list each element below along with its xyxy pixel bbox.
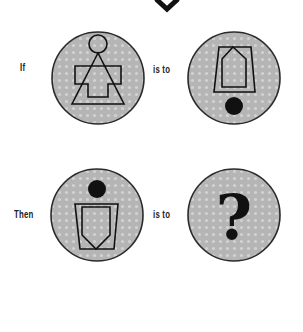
dot-icon	[88, 180, 106, 198]
chevron-down-icon	[156, 0, 178, 9]
prefix-if: If	[20, 62, 25, 73]
figure-then-right: ?	[188, 169, 280, 261]
dot-icon	[225, 97, 243, 115]
figure-then-left	[51, 169, 143, 261]
figure-if-right	[188, 32, 280, 124]
question-mark-icon: ?	[216, 181, 252, 254]
prefix-then: Then	[14, 209, 34, 220]
relation-is-to-top: is to	[153, 64, 170, 75]
figure-if-left	[52, 32, 144, 124]
relation-is-to-bottom: is to	[153, 209, 170, 220]
analogy-diagram: ?	[0, 0, 303, 332]
